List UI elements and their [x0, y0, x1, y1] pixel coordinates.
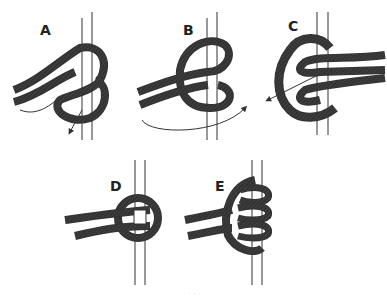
panel-label-e: E [215, 178, 225, 194]
panel-e [185, 160, 269, 285]
panel-c [268, 12, 385, 135]
panel-label-d: D [110, 178, 122, 194]
panel-label-b: B [183, 22, 194, 38]
knot-diagram [0, 0, 387, 300]
figure-caption: · · · [170, 290, 220, 296]
panel-a [14, 12, 105, 140]
panel-label-a: A [40, 22, 51, 38]
panel-label-c: C [288, 18, 298, 34]
